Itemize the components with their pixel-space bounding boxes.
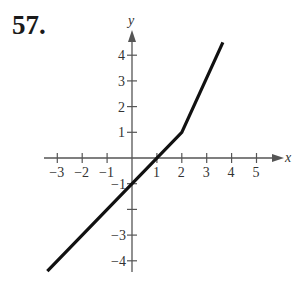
y-tick-label: 2 (118, 100, 125, 115)
y-axis-label: y (126, 13, 135, 28)
x-tick-label: 5 (253, 165, 260, 180)
chart: −3−2−112345 x 4321−1−3−4 y (0, 0, 292, 287)
x-tick-label: 1 (153, 165, 160, 180)
x-axis-arrow-icon (272, 154, 284, 162)
y-tick-label: 3 (118, 74, 125, 89)
x-axis: −3−2−112345 x (44, 150, 292, 180)
function-graph-line (47, 42, 223, 271)
x-tick-label: 2 (178, 165, 185, 180)
y-tick-label: 1 (118, 125, 125, 140)
x-tick-label: 4 (228, 165, 235, 180)
y-axis: 4321−1−3−4 y (111, 13, 137, 272)
y-tick-label: −4 (111, 254, 126, 269)
y-tick-label: −1 (111, 177, 126, 192)
y-tick-label: 4 (118, 48, 125, 63)
y-axis-arrow-icon (128, 30, 136, 42)
x-tick-label: −3 (49, 165, 64, 180)
x-tick-label: −2 (74, 165, 89, 180)
x-axis-label: x (284, 150, 292, 165)
y-tick-label: −3 (111, 228, 126, 243)
x-tick-label: 3 (203, 165, 210, 180)
